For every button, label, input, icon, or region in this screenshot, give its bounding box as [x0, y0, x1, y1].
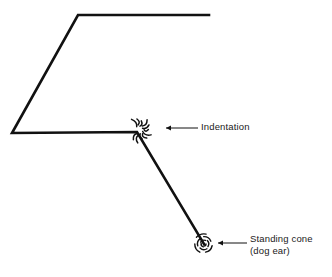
standing-cone-arc [207, 241, 208, 247]
standing-cone-arc [200, 248, 207, 250]
standing-cone-callout-label: Standing cone (dog ear) [250, 233, 313, 256]
indentation-ray [144, 130, 148, 132]
callout-leader-lines [166, 126, 247, 246]
indentation-callout-arrowhead [166, 126, 171, 131]
indentation-ray [136, 135, 138, 143]
bent-sheet-outline [12, 15, 209, 244]
standing-cone-arc [197, 239, 200, 246]
workpiece-outline-group [12, 15, 209, 244]
indentation-ray [132, 119, 137, 126]
indentation-ray [143, 132, 151, 136]
standing-cone-label-line-1: Standing cone [250, 233, 313, 245]
diagram-canvas: Indentation Standing cone (dog ear) [0, 0, 332, 277]
indentation-ray [140, 121, 142, 126]
indentation-callout-label: Indentation [201, 121, 250, 133]
standing-cone-callout-arrowhead [218, 241, 223, 246]
standing-cone-label-line-2: (dog ear) [250, 245, 313, 257]
indentation-ray [142, 120, 147, 126]
